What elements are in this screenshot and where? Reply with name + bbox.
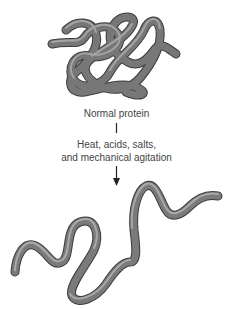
process-label-line1: Heat, acids, salts, [0, 139, 233, 151]
denatured-protein-icon [15, 183, 218, 300]
process-label-line2: and mechanical agitation [0, 152, 233, 164]
folded-protein-icon [52, 17, 176, 95]
normal-protein-label: Normal protein [0, 108, 233, 120]
